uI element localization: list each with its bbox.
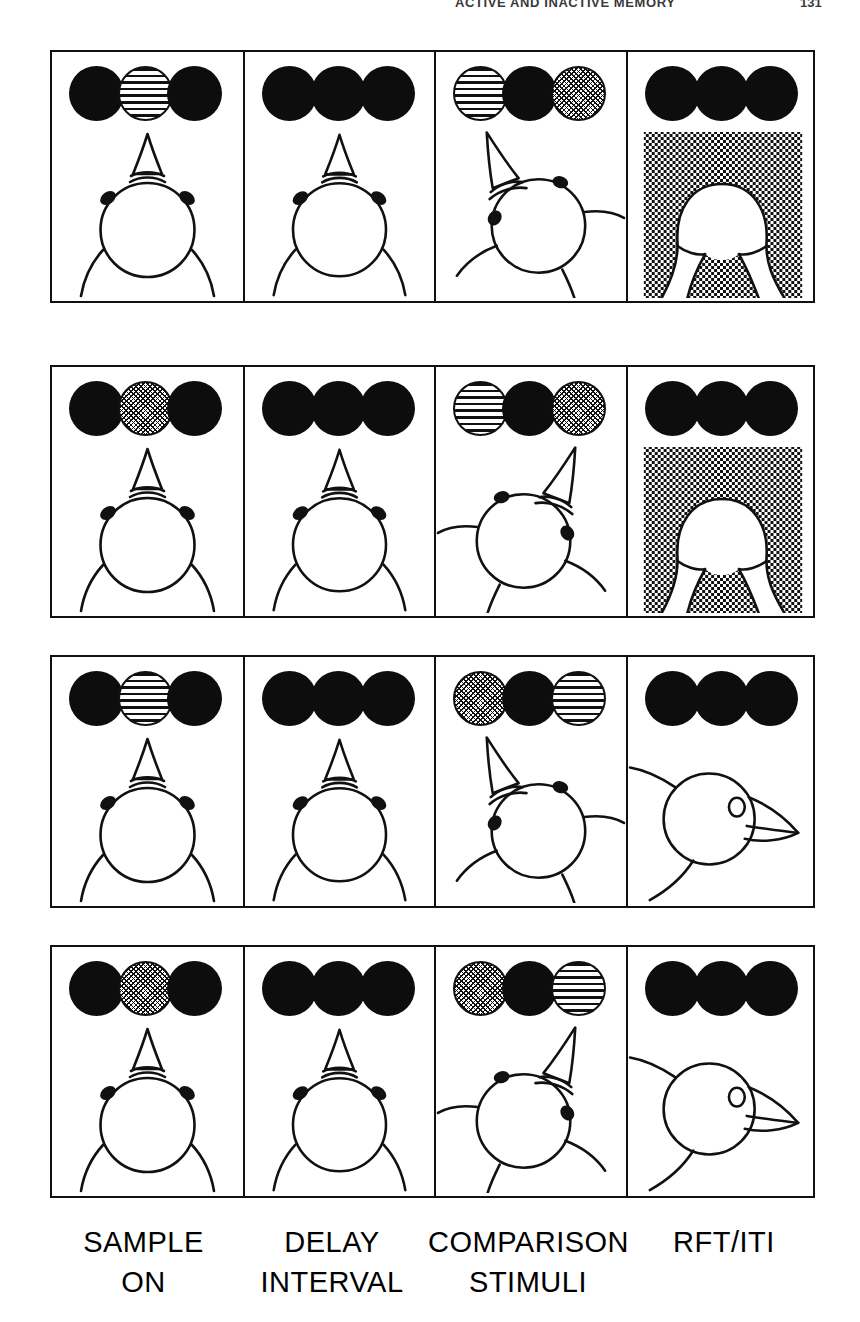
pigeon-facing-forward — [52, 126, 243, 298]
response-key-dark[interactable] — [502, 671, 557, 726]
panel-outcome — [626, 367, 817, 616]
pigeon-facing-forward — [245, 731, 434, 903]
response-key-dark[interactable] — [262, 381, 317, 436]
trial-row — [50, 945, 815, 1198]
response-key-dark[interactable] — [69, 961, 124, 1016]
column-label-sample-line2: ON — [48, 1262, 239, 1302]
page-number: 131 — [800, 0, 822, 10]
response-key-dark[interactable] — [311, 66, 366, 121]
pigeon-profile-right — [628, 1021, 817, 1193]
response-key-row — [52, 961, 243, 1023]
response-key-dark[interactable] — [502, 381, 557, 436]
response-key-row — [52, 671, 243, 733]
response-key-row — [628, 381, 817, 443]
response-key-dotted[interactable] — [453, 671, 508, 726]
response-key-dark[interactable] — [694, 961, 749, 1016]
response-key-dark[interactable] — [694, 381, 749, 436]
response-key-row — [52, 66, 243, 128]
column-label-delay: DELAY INTERVAL — [232, 1222, 432, 1302]
response-key-dark[interactable] — [743, 66, 798, 121]
response-key-striped[interactable] — [551, 671, 606, 726]
response-key-dark[interactable] — [694, 66, 749, 121]
response-key-dark[interactable] — [645, 381, 700, 436]
response-key-dark[interactable] — [311, 381, 366, 436]
response-key-striped[interactable] — [453, 381, 508, 436]
panel-outcome — [626, 947, 817, 1196]
figure-page: ACTIVE AND INACTIVE MEMORY 131 — [0, 0, 860, 1322]
response-key-dark[interactable] — [262, 671, 317, 726]
trial-row — [50, 365, 815, 618]
column-label-comparison-line1: COMPARISON — [428, 1222, 628, 1262]
response-key-striped[interactable] — [118, 671, 173, 726]
response-key-dark[interactable] — [69, 381, 124, 436]
response-key-dotted[interactable] — [118, 381, 173, 436]
response-key-dark[interactable] — [262, 66, 317, 121]
pigeon-facing-forward — [52, 441, 243, 613]
response-key-dark[interactable] — [360, 671, 415, 726]
response-key-dark[interactable] — [502, 66, 557, 121]
response-key-dark[interactable] — [694, 671, 749, 726]
response-key-dark[interactable] — [311, 961, 366, 1016]
response-key-row — [628, 671, 817, 733]
running-head: ACTIVE AND INACTIVE MEMORY 131 — [0, 0, 860, 14]
response-key-row — [628, 961, 817, 1023]
panel-delay — [243, 52, 434, 301]
column-label-comparison: COMPARISON STIMULI — [428, 1222, 628, 1302]
pigeon-facing-forward — [245, 1021, 434, 1193]
response-key-dark[interactable] — [167, 671, 222, 726]
response-key-dark[interactable] — [311, 671, 366, 726]
response-key-dark[interactable] — [502, 961, 557, 1016]
response-key-dotted[interactable] — [453, 961, 508, 1016]
pigeon-facing-forward — [52, 731, 243, 903]
response-key-striped[interactable] — [453, 66, 508, 121]
column-label-delay-line2: INTERVAL — [232, 1262, 432, 1302]
response-key-dark[interactable] — [645, 66, 700, 121]
trial-panel-grid — [50, 50, 815, 1210]
response-key-dotted[interactable] — [551, 66, 606, 121]
pigeon-turned-left — [436, 731, 626, 903]
panel-sample — [52, 657, 243, 906]
panel-sample — [52, 52, 243, 301]
response-key-dotted[interactable] — [551, 381, 606, 436]
response-key-dark[interactable] — [360, 66, 415, 121]
response-key-striped[interactable] — [551, 961, 606, 1016]
response-key-row — [436, 381, 626, 443]
response-key-row — [436, 671, 626, 733]
response-key-dark[interactable] — [262, 961, 317, 1016]
panel-outcome — [626, 657, 817, 906]
pigeon-facing-forward — [245, 441, 434, 613]
response-key-dark[interactable] — [167, 66, 222, 121]
column-label-comparison-line2: STIMULI — [428, 1262, 628, 1302]
pigeon-turned-right — [436, 1021, 626, 1193]
column-label-sample: SAMPLE ON — [48, 1222, 239, 1302]
trial-row — [50, 50, 815, 303]
response-key-dark[interactable] — [69, 66, 124, 121]
response-key-row — [436, 961, 626, 1023]
panel-comparison — [434, 657, 626, 906]
response-key-dark[interactable] — [360, 961, 415, 1016]
response-key-dark[interactable] — [645, 671, 700, 726]
pigeon-facing-forward — [52, 1021, 243, 1193]
panel-delay — [243, 367, 434, 616]
response-key-dark[interactable] — [360, 381, 415, 436]
response-key-striped[interactable] — [118, 66, 173, 121]
response-key-dark[interactable] — [743, 381, 798, 436]
response-key-dark[interactable] — [645, 961, 700, 1016]
response-key-dark[interactable] — [743, 671, 798, 726]
panel-comparison — [434, 947, 626, 1196]
response-key-row — [628, 66, 817, 128]
column-label-outcome-line1: RFT/ITI — [626, 1222, 822, 1262]
pigeon-turned-right — [436, 441, 626, 613]
grain-hopper-with-bird — [628, 122, 817, 298]
response-key-dark[interactable] — [743, 961, 798, 1016]
running-head-title: ACTIVE AND INACTIVE MEMORY — [455, 0, 675, 10]
pigeon-facing-forward — [245, 126, 434, 298]
panel-comparison — [434, 367, 626, 616]
panel-comparison — [434, 52, 626, 301]
response-key-dark[interactable] — [167, 381, 222, 436]
response-key-row — [245, 66, 434, 128]
response-key-dotted[interactable] — [118, 961, 173, 1016]
response-key-dark[interactable] — [167, 961, 222, 1016]
column-label-sample-line1: SAMPLE — [48, 1222, 239, 1262]
response-key-dark[interactable] — [69, 671, 124, 726]
